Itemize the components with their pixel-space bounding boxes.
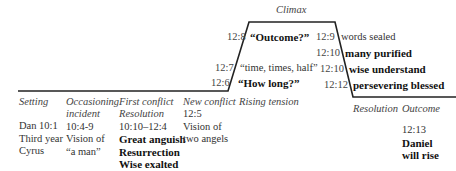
stage-rising-tension: Rising tension (239, 96, 299, 108)
stage-label: First conflict (119, 96, 186, 108)
stage-occasioning-incident: Occasioning incident 10:4-9 Vision of “a… (66, 96, 119, 158)
climax-label: Climax (276, 5, 306, 16)
falling-text-many-purified: many purified (345, 48, 412, 59)
rising-ref-12-8: 12:8 (227, 32, 246, 43)
stage-label: Resolution (353, 103, 398, 115)
falling-ref-12-10b: 12:10 (320, 64, 344, 75)
rising-text-how-long: “How long?” (238, 78, 299, 89)
stage-first-conflict: First conflict Resolution 10:10–12:4 Gre… (119, 96, 186, 170)
rising-ref-12-6: 12:6 (211, 78, 230, 89)
stage-resolution: Resolution (353, 103, 398, 115)
stage-label: Outcome (402, 103, 440, 115)
stage-outcome: Outcome 12:13 Daniel will rise (402, 103, 440, 162)
stage-label: Occasioning (66, 96, 119, 108)
stage-setting: Setting Dan 10:1 Third year Cyrus (19, 96, 63, 158)
falling-text-wise-understand: wise understand (349, 64, 426, 75)
falling-ref-12-12: 12:12 (324, 80, 348, 91)
stage-label: Setting (19, 96, 63, 108)
falling-text-persevering-blessed: persevering blessed (353, 80, 444, 91)
rising-text-outcome: “Outcome?” (250, 32, 309, 43)
falling-ref-12-9: 12:9 (316, 32, 335, 43)
stage-new-conflict: New conflict 12:5 Vision of two angels (183, 96, 236, 146)
stage-label: Rising tension (239, 96, 299, 108)
falling-ref-12-10a: 12:10 (316, 48, 340, 59)
rising-text-time-times-half: “time, times, half” (240, 63, 318, 74)
rising-ref-12-7: 12:7 (215, 63, 234, 74)
stage-label: New conflict (183, 96, 236, 108)
falling-text-words-sealed: words sealed (341, 32, 396, 43)
